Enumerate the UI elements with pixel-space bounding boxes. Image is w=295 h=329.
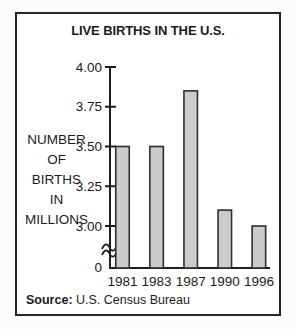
- x-tick-label: 1987: [176, 274, 206, 289]
- source-line: Source: U.S. Census Bureau: [26, 293, 190, 307]
- source-label: Source:: [26, 293, 73, 307]
- origin-label: 0: [94, 260, 102, 275]
- bar-1983: [150, 147, 164, 269]
- bar-1990: [218, 210, 232, 268]
- chart-frame: LIVE BIRTHS IN THE U.S. NUMBER OF BIRTHS…: [15, 12, 281, 316]
- y-tick-label: 3.25: [76, 179, 102, 194]
- x-tick-label: 1983: [142, 274, 172, 289]
- bar-1996: [252, 226, 266, 268]
- x-tick-label: 1990: [210, 274, 240, 289]
- bar-chart-plot: 4.003.753.503.253.0001981198319871990199…: [17, 14, 279, 314]
- bar-1987: [184, 91, 198, 268]
- y-tick-label: 3.50: [76, 139, 102, 154]
- y-tick-label: 3.75: [76, 99, 102, 114]
- x-tick-label: 1996: [244, 274, 274, 289]
- y-tick-label: 4.00: [76, 60, 102, 75]
- x-tick-label: 1981: [107, 274, 137, 289]
- source-text: U.S. Census Bureau: [76, 293, 190, 307]
- y-tick-label: 3.00: [76, 219, 102, 234]
- bar-1981: [116, 147, 130, 269]
